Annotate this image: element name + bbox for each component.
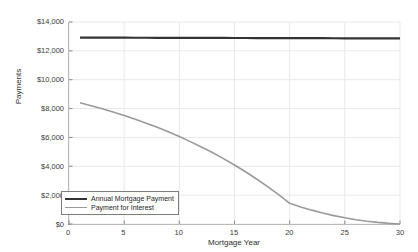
x-axis-title: Mortgage Year bbox=[68, 238, 400, 247]
legend-line-swatch-icon bbox=[65, 198, 87, 200]
chart-legend[interactable]: Annual Mortgage Payment Payment for Inte… bbox=[61, 191, 179, 215]
x-axis-tick-label: 10 bbox=[159, 228, 199, 237]
legend-item-label: Annual Mortgage Payment bbox=[91, 194, 174, 203]
y-axis-tick-label: $10,000 bbox=[0, 75, 64, 84]
legend-item-label: Payment for Interest bbox=[91, 203, 154, 212]
y-axis-tick-label: $8,000 bbox=[0, 104, 64, 113]
x-axis-tick-label: 20 bbox=[269, 228, 309, 237]
x-axis-tick-label: 30 bbox=[380, 228, 418, 237]
y-axis-tick-label: $12,000 bbox=[0, 46, 64, 55]
legend-item-annual-mortgage-payment[interactable]: Annual Mortgage Payment bbox=[65, 194, 174, 203]
series-line bbox=[80, 38, 400, 39]
x-axis-tick-label: 25 bbox=[325, 228, 365, 237]
x-axis-tick-label: 0 bbox=[48, 228, 88, 237]
y-axis-tick-label: $4,000 bbox=[0, 162, 64, 171]
x-axis-tick-label: 5 bbox=[103, 228, 143, 237]
chart-figure: $0$2,000$4,000$6,000$8,000$10,000$12,000… bbox=[0, 0, 418, 252]
legend-item-payment-for-interest[interactable]: Payment for Interest bbox=[65, 203, 174, 212]
x-axis-tick-label: 15 bbox=[214, 228, 254, 237]
y-axis-title: Payments bbox=[14, 47, 23, 127]
y-axis-tick-label: $6,000 bbox=[0, 133, 64, 142]
legend-line-swatch-icon bbox=[65, 207, 87, 208]
y-axis-tick-label: $14,000 bbox=[0, 17, 64, 26]
y-axis-tick-label: $2,000 bbox=[0, 191, 64, 200]
